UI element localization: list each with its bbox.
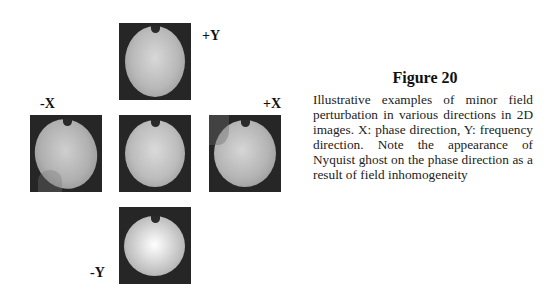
figure-caption: Illustrative examples of minor field per… <box>313 92 533 182</box>
label-minus-y: -Y <box>90 266 105 280</box>
mri-image-minus-x <box>30 115 102 192</box>
figure-title: Figure 20 <box>340 69 510 87</box>
nyquist-ghost <box>209 115 229 145</box>
phantom-shape <box>125 120 185 187</box>
label-plus-x: +X <box>263 97 281 111</box>
mri-image-plus-x <box>209 115 281 192</box>
label-plus-y: +Y <box>202 29 220 43</box>
mri-image-plus-y <box>119 23 191 100</box>
mri-image-minus-y <box>119 207 191 284</box>
phantom-shape <box>124 216 185 276</box>
phantom-shape <box>125 26 185 97</box>
nyquist-ghost <box>38 170 62 192</box>
label-minus-x: -X <box>40 97 55 111</box>
mri-image-center <box>119 115 191 192</box>
